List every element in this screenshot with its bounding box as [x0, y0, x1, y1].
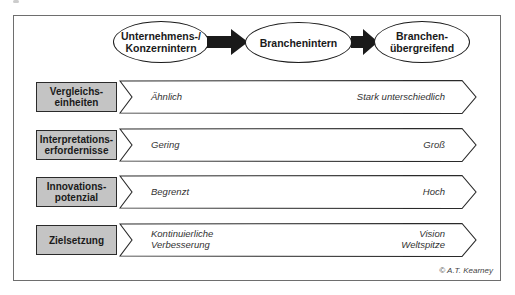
scale-end-line1: Vision: [401, 228, 445, 239]
chevron-arrow-row-1: Ähnlich Stark unterschiedlich: [119, 80, 479, 114]
row-label-interpretation-needs: Interpretations- erfordernisse: [36, 130, 117, 160]
scale-start-value: Begrenzt: [151, 186, 189, 197]
scale-end-value: Hoch: [423, 186, 445, 197]
flow-arrow-icon: [207, 29, 249, 55]
row-label-innovation-potential: Innovations- potenzial: [36, 177, 117, 207]
scale-end-value: Vision Weltspitze: [401, 228, 445, 250]
scale-start-value: Kontinuierliche Verbesserung: [151, 228, 213, 250]
row-label-line2: einheiten: [50, 97, 103, 108]
stage-label-line1: Unternehmens-/: [121, 30, 201, 42]
stage-label-line2: übergreifend: [390, 42, 454, 54]
row-label-objective: Zielsetzung: [36, 225, 117, 255]
scale-start-value: Ähnlich: [151, 91, 182, 102]
stage-industry-internal: Branchenintern: [245, 22, 352, 63]
chevron-arrow-row-2: Gering Groß: [119, 128, 479, 162]
chevron-arrow-row-4: Kontinuierliche Verbesserung Vision Welt…: [119, 223, 479, 257]
copyright-credit: © A.T. Kearney: [439, 266, 493, 275]
row-label-comparison-units: Vergleichs- einheiten: [36, 82, 117, 112]
scale-start-line2: Verbesserung: [151, 239, 213, 250]
row-label-line1: Zielsetzung: [49, 235, 104, 246]
stage-label-line1: Branchen-: [390, 30, 454, 42]
stage-label-line1: Branchenintern: [260, 37, 338, 49]
scale-end-value: Stark unterschiedlich: [357, 91, 445, 102]
scale-start-value: Gering: [151, 139, 180, 150]
stage-cross-industry: Branchen- übergreifend: [374, 21, 470, 63]
row-label-line2: erfordernisse: [40, 145, 113, 156]
row-label-line1: Vergleichs-: [50, 86, 103, 97]
row-label-line1: Interpretations-: [40, 134, 113, 145]
scale-end-value: Groß: [423, 139, 445, 150]
stage-label-line2: Konzernintern: [121, 42, 201, 54]
scan-artifact: [13, 0, 19, 3]
row-label-line1: Innovations-: [47, 181, 106, 192]
stage-company-internal: Unternehmens-/ Konzernintern: [113, 21, 209, 63]
scale-start-line1: Kontinuierliche: [151, 228, 213, 239]
scale-end-line2: Weltspitze: [401, 239, 445, 250]
row-label-line2: potenzial: [47, 192, 106, 203]
chevron-arrow-row-3: Begrenzt Hoch: [119, 175, 479, 209]
